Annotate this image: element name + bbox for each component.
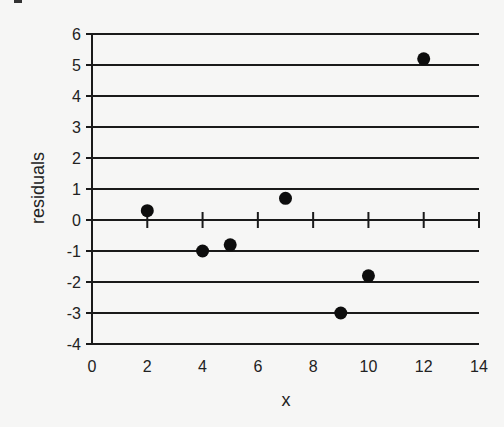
data-points (141, 52, 430, 319)
y-tick-label: 5 (72, 57, 81, 74)
x-tick-label: 6 (253, 358, 262, 375)
y-tick-label: -1 (67, 243, 81, 260)
y-tick-label: 1 (72, 181, 81, 198)
data-point (196, 245, 209, 258)
y-tick-label: 6 (72, 26, 81, 43)
data-point (141, 204, 154, 217)
residual-scatter-chart: -4-3-2-10123456 02468101214 x residuals (0, 0, 504, 427)
y-tick-label: -3 (67, 305, 81, 322)
y-tick-label: -4 (67, 336, 81, 353)
data-point (279, 192, 292, 205)
x-axis-title: x (282, 390, 291, 410)
cropped-glyph-fragment (14, 0, 22, 3)
y-axis-title: residuals (28, 152, 48, 224)
y-tick-label: -2 (67, 274, 81, 291)
data-point (334, 307, 347, 320)
x-tick-label: 12 (415, 358, 433, 375)
y-tick-label: 4 (72, 88, 81, 105)
data-point (362, 269, 375, 282)
x-tick-label: 4 (198, 358, 207, 375)
x-tick-label: 2 (143, 358, 152, 375)
data-point (417, 52, 430, 65)
x-tick-label: 8 (309, 358, 318, 375)
x-tick-labels: 02468101214 (88, 358, 488, 375)
x-tick-label: 0 (88, 358, 97, 375)
y-tick-labels: -4-3-2-10123456 (67, 26, 81, 353)
data-point (224, 238, 237, 251)
x-tick-label: 14 (470, 358, 488, 375)
y-tick-label: 3 (72, 119, 81, 136)
x-tick-label: 10 (360, 358, 378, 375)
y-tick-label: 0 (72, 212, 81, 229)
horizontal-gridlines (86, 34, 479, 344)
y-tick-label: 2 (72, 150, 81, 167)
